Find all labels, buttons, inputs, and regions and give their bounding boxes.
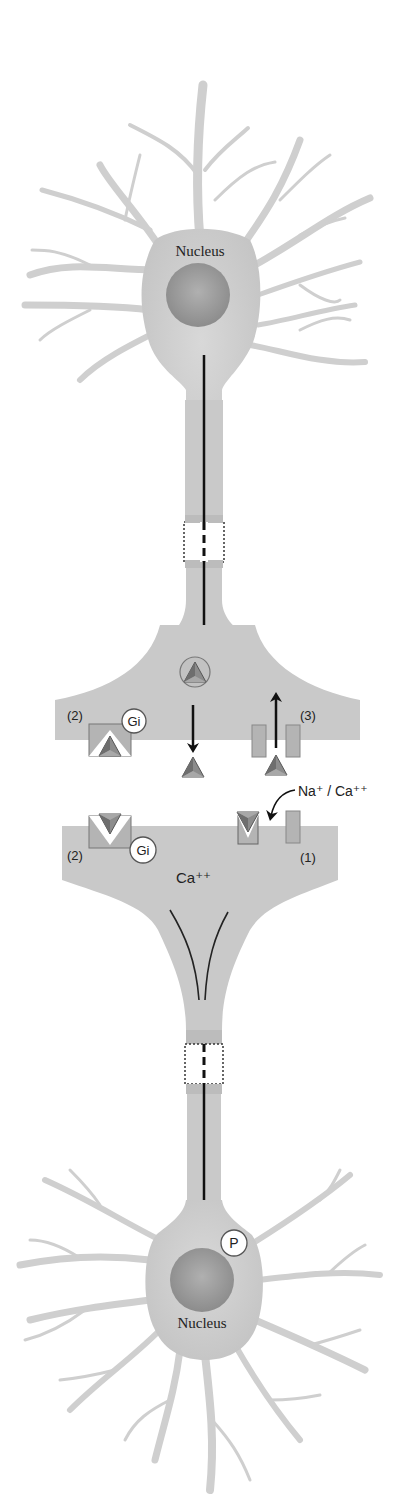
upper-nucleus-label: Nucleus: [175, 243, 224, 259]
calcium-label: Ca⁺⁺: [176, 869, 211, 886]
post-gi-label: Gi: [137, 843, 150, 858]
pre-channel-3-label: (3): [300, 708, 316, 723]
phospho-label: P: [229, 1235, 238, 1251]
upper-nucleus: [166, 263, 230, 327]
pre-gi-label: Gi: [128, 714, 141, 729]
cleft-ligand: [182, 757, 204, 777]
presynaptic-terminal: (2) Gi (3): [55, 625, 360, 757]
reuptake-ligand: [265, 755, 287, 775]
pre-channel-3-right: [286, 725, 300, 757]
neuron-diagram: Nucleus (2) Gi (3): [0, 0, 417, 1504]
post-channel-1-right: [286, 811, 300, 843]
lower-nucleus-label: Nucleus: [177, 1315, 226, 1331]
postsynaptic-terminal: Gi (2) (1) Ca⁺⁺: [62, 811, 338, 1030]
ion-label: Na⁺ / Ca⁺⁺: [298, 783, 368, 799]
post-channel-1-label: (1): [300, 850, 316, 865]
lower-nucleus: [170, 1248, 234, 1312]
synaptic-cleft: Na⁺ / Ca⁺⁺: [182, 755, 368, 816]
pre-receptor-2-label: (2): [67, 708, 83, 723]
lower-axon: [185, 1030, 223, 1218]
lower-neuron: P Nucleus: [20, 1170, 380, 1490]
post-receptor-2-label: (2): [67, 848, 83, 863]
pre-channel-3-left: [252, 725, 266, 757]
